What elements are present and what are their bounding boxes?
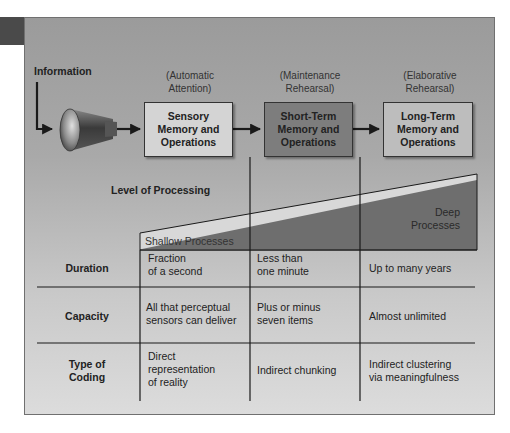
level-of-processing-label: Level of Processing bbox=[111, 184, 210, 197]
row-header-duration: Duration bbox=[37, 262, 137, 275]
process-label-maintenance-rehearsal: (Maintenance Rehearsal) bbox=[268, 69, 352, 95]
process-label-automatic-attention: (Automatic Attention) bbox=[150, 69, 230, 95]
cell-coding-sensory: Direct representation of reality bbox=[148, 350, 215, 389]
long-term-memory-box: Long-Term Memory and Operations bbox=[383, 102, 473, 157]
shallow-processes-label: Shallow Processes bbox=[145, 235, 234, 248]
cell-capacity-longterm: Almost unlimited bbox=[369, 310, 446, 323]
cell-capacity-sensory: All that perceptual sensors can deliver bbox=[146, 301, 236, 327]
funnel-icon bbox=[60, 109, 117, 151]
short-term-memory-box: Short-Term Memory and Operations bbox=[264, 102, 353, 157]
cell-duration-longterm: Up to many years bbox=[369, 262, 451, 275]
row-header-type-of-coding: Type of Coding bbox=[37, 358, 137, 384]
deep-processes-label: Deep Processes bbox=[400, 206, 460, 232]
cell-duration-sensory: Fraction of a second bbox=[148, 252, 202, 278]
cell-duration-shortterm: Less than one minute bbox=[257, 252, 309, 278]
cell-coding-shortterm: Indirect chunking bbox=[257, 364, 336, 377]
cell-coding-longterm: Indirect clustering via meaningfulness bbox=[369, 358, 459, 384]
row-header-capacity: Capacity bbox=[37, 310, 137, 323]
sensory-memory-box: Sensory Memory and Operations bbox=[144, 102, 233, 157]
process-label-elaborative-rehearsal: (Elaborative Rehearsal) bbox=[388, 69, 472, 95]
input-arrow bbox=[37, 82, 52, 129]
information-label: Information bbox=[34, 65, 92, 78]
cell-capacity-shortterm: Plus or minus seven items bbox=[257, 301, 321, 327]
